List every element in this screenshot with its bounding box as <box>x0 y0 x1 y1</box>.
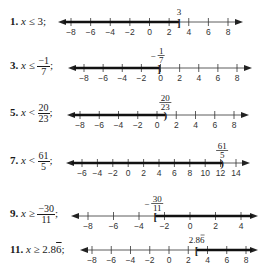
tick-label: −6 <box>94 120 104 130</box>
tick-label: −6 <box>98 73 108 83</box>
tick-label: 6 <box>212 120 217 130</box>
tick-label: 8 <box>235 73 240 83</box>
tick-label: −2 <box>125 27 135 37</box>
tick-label: −4 <box>134 221 144 231</box>
number-line: −8−6−4−202468[2.86 <box>0 235 271 280</box>
tick-label: −4 <box>105 27 115 37</box>
tick-label: −2 <box>133 120 143 130</box>
number-line: −8−6−4−202468)2023 <box>0 90 271 135</box>
boundary-label: 615 <box>216 141 228 160</box>
tick-label: 4 <box>193 120 198 130</box>
tick-label: 0 <box>147 27 152 37</box>
tick-label: 8 <box>232 120 237 130</box>
number-line: −8−6−4−202468]17− <box>0 45 271 90</box>
svg-text:7: 7 <box>159 55 164 65</box>
svg-text:−: − <box>144 199 149 209</box>
tick-label: −6 <box>106 255 116 265</box>
number-line: −8−6−4−202468]3 <box>0 0 271 45</box>
tick-label: 14 <box>231 168 241 178</box>
svg-text:−: − <box>151 51 156 61</box>
tick-label: 0 <box>158 73 163 83</box>
svg-text:5: 5 <box>220 150 225 160</box>
boundary-label: 2023 <box>159 93 171 112</box>
tick-label: −4 <box>117 73 127 83</box>
tick-label: 2 <box>141 168 146 178</box>
tick-label: 4 <box>205 255 210 265</box>
boundary-label: 3011− <box>144 194 163 213</box>
endpoint-bracket: ] <box>177 16 181 28</box>
tick-label: 6 <box>172 168 177 178</box>
tick-label: 8 <box>187 168 192 178</box>
tick-label: −8 <box>79 73 89 83</box>
tick-label: 4 <box>196 73 201 83</box>
tick-label: 0 <box>155 120 160 130</box>
tick-label: −2 <box>145 255 155 265</box>
tick-label: 4 <box>157 168 162 178</box>
tick-label: 6 <box>206 27 211 37</box>
number-line: −6−4−202468101214)615 <box>0 135 271 180</box>
tick-label: 12 <box>216 168 226 178</box>
tick-label: 4 <box>186 27 191 37</box>
tick-label: 6 <box>216 73 221 83</box>
tick-label: 2 <box>213 221 218 231</box>
tick-label: 8 <box>244 255 249 265</box>
problem-9: 9. x ≥ −3011;−8−6−4−2024[3011− <box>0 185 271 230</box>
tick-label: −6 <box>109 221 119 231</box>
tick-label: 6 <box>224 255 229 265</box>
problem-11: 11. x ≥ 2.86;−8−6−4−202468[2.86 <box>0 235 271 280</box>
svg-text:11: 11 <box>153 203 162 213</box>
tick-label: 0 <box>188 221 193 231</box>
tick-label: −6 <box>77 168 87 178</box>
tick-label: 2 <box>186 255 191 265</box>
number-line: −8−6−4−2024[3011− <box>0 185 271 230</box>
tick-label: 10 <box>200 168 210 178</box>
tick-label: −4 <box>114 120 124 130</box>
problem-1: 1. x ≤ 3;−8−6−4−202468]3 <box>0 0 271 45</box>
tick-label: −2 <box>137 73 147 83</box>
tick-label: −8 <box>75 120 85 130</box>
problem-5: 5. x < 2023;−8−6−4−202468)2023 <box>0 90 271 135</box>
problem-3: 3. x ≤ −17;−8−6−4−202468]17− <box>0 45 271 90</box>
tick-label: 8 <box>226 27 231 37</box>
tick-label: −8 <box>66 27 76 37</box>
tick-label: 0 <box>126 168 131 178</box>
tick-label: −6 <box>86 27 96 37</box>
tick-label: −2 <box>108 168 118 178</box>
boundary-label: 3 <box>177 7 182 17</box>
tick-label: 4 <box>239 221 244 231</box>
tick-label: −8 <box>83 221 93 231</box>
problem-7: 7. x < 615;−6−4−202468101214)615 <box>0 135 271 180</box>
tick-label: 2 <box>174 120 179 130</box>
tick-label: 0 <box>167 255 172 265</box>
tick-label: −2 <box>160 221 170 231</box>
tick-label: −8 <box>87 255 97 265</box>
tick-label: −4 <box>93 168 103 178</box>
tick-label: 2 <box>177 73 182 83</box>
endpoint-bracket: [ <box>195 244 199 256</box>
svg-text:23: 23 <box>161 102 171 112</box>
tick-label: 2 <box>167 27 172 37</box>
tick-label: −4 <box>126 255 136 265</box>
boundary-label: 2.86 <box>189 235 205 245</box>
